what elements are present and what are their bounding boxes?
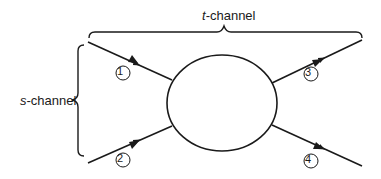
scattering-diagram [0,0,381,179]
arrow-1-icon [128,55,138,63]
particle-label-3: 3 [305,66,311,78]
particle-label-1: 1 [117,65,123,77]
arrow-2-icon [129,140,140,149]
arrow-3-icon [312,59,323,67]
particle-label-4: 4 [305,153,311,165]
t-channel-label: t-channel [202,8,256,23]
s-channel-label: s-channel [20,93,76,108]
particle-label-2: 2 [117,152,123,164]
interaction-blob [167,55,277,151]
arrow-4-icon [313,142,324,149]
t-channel-brace [89,26,362,38]
